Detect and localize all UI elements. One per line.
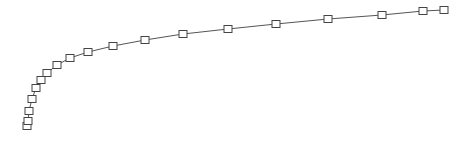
data-line <box>27 10 444 126</box>
square-marker <box>32 85 40 92</box>
square-marker <box>378 12 386 19</box>
square-marker <box>179 31 187 38</box>
square-marker <box>419 8 427 15</box>
square-marker <box>141 37 149 44</box>
square-marker <box>25 108 33 115</box>
square-marker <box>37 77 45 84</box>
square-marker <box>109 43 117 50</box>
square-marker <box>28 96 36 103</box>
square-marker <box>24 118 32 125</box>
square-marker <box>53 62 61 69</box>
square-marker <box>66 55 74 62</box>
line-chart <box>0 0 472 142</box>
square-marker <box>224 26 232 33</box>
square-marker <box>43 70 51 77</box>
data-markers <box>23 7 448 130</box>
square-marker <box>272 21 280 28</box>
square-marker <box>324 16 332 23</box>
square-marker <box>84 49 92 56</box>
square-marker <box>440 7 448 14</box>
